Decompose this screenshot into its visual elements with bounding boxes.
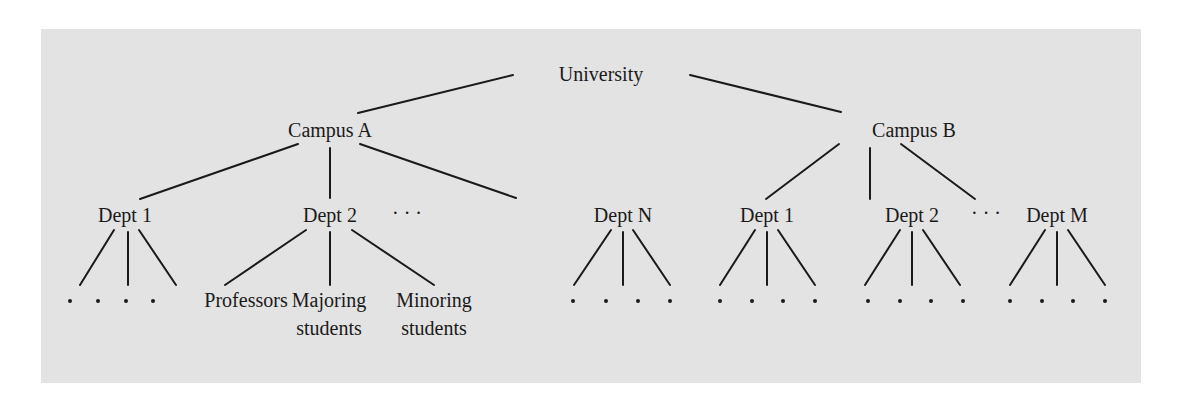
- node-university: University: [559, 63, 643, 86]
- edge-b-dept1-child-left: [720, 230, 755, 285]
- edge-dept-n-child-right: [633, 230, 670, 285]
- university-hierarchy-diagram: University Campus A Campus B Dept 1 Dept…: [0, 0, 1179, 405]
- edge-campus-a-dept-n: [360, 144, 516, 198]
- edge-university-campus-a: [358, 75, 513, 113]
- edge-dept-m-child-right: [1068, 230, 1105, 285]
- edge-a-dept1-child-left: [80, 230, 114, 285]
- leaf-dots-a-dept-1: [68, 299, 155, 303]
- leaf-dots-dept-n: [571, 299, 672, 303]
- edge-a-dept1-child-right: [139, 230, 176, 285]
- edge-dept-n-child-left: [574, 230, 611, 285]
- edge-campus-a-dept-1: [140, 144, 298, 199]
- edge-university-campus-b: [690, 75, 841, 112]
- edge-campus-b-dept-1: [766, 144, 839, 199]
- ellipsis-campus-a: · · ·: [392, 202, 422, 224]
- node-a-dept-2: Dept 2: [303, 204, 357, 227]
- edge-b-dept2-child-right: [923, 230, 960, 285]
- node-dept-m: Dept M: [1026, 204, 1088, 227]
- node-b-dept-1: Dept 1: [740, 204, 794, 227]
- node-minoring-students-line2: students: [401, 317, 467, 339]
- node-dept-n: Dept N: [594, 204, 652, 227]
- edge-dept2-professors: [225, 230, 306, 285]
- edge-b-dept1-child-right: [778, 230, 815, 285]
- node-campus-a: Campus A: [288, 119, 372, 142]
- node-majoring-students-line1: Majoring: [292, 289, 366, 312]
- leaf-dots-b-dept-2: [866, 299, 965, 303]
- node-professors: Professors: [204, 289, 288, 311]
- node-majoring-students-line2: students: [296, 317, 362, 339]
- edge-dept-m-child-left: [1010, 230, 1045, 285]
- node-a-dept-1: Dept 1: [98, 204, 152, 227]
- ellipsis-campus-b: · · ·: [971, 202, 1001, 224]
- edge-dept2-minoring: [352, 230, 434, 285]
- node-b-dept-2: Dept 2: [885, 204, 939, 227]
- node-campus-b: Campus B: [872, 119, 956, 142]
- leaf-dots-dept-m: [1008, 299, 1107, 303]
- leaf-dots-b-dept-1: [718, 299, 817, 303]
- edge-campus-b-dept-m: [901, 144, 975, 199]
- node-minoring-students-line1: Minoring: [396, 289, 472, 312]
- edge-b-dept2-child-left: [865, 230, 900, 285]
